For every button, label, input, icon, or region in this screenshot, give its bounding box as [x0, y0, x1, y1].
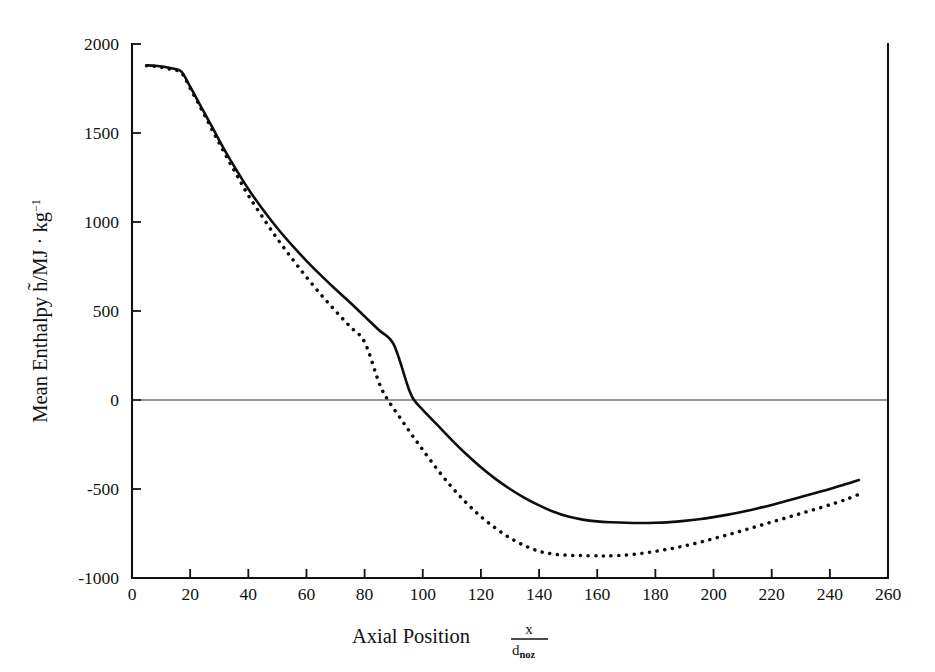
y-tick-label: 1500 — [84, 123, 119, 143]
x-tick-label: 180 — [642, 584, 669, 604]
y-tick-label: 500 — [93, 301, 120, 321]
y-axis-title-symbol: h̃ — [27, 282, 51, 292]
x-tick-label: 100 — [410, 584, 437, 604]
x-tick-label: 60 — [298, 584, 316, 604]
x-axis-fraction-numerator: x — [525, 621, 533, 637]
enthalpy-decay-chart: 020406080100120140160180200220240260 -10… — [0, 0, 935, 672]
x-tick-label: 200 — [700, 584, 727, 604]
y-axis-title-units: /MJ · kg — [29, 212, 52, 281]
x-tick-label: 220 — [759, 584, 786, 604]
y-tick-label: -500 — [87, 479, 119, 499]
x-tick-label: 40 — [240, 584, 258, 604]
y-tick-label: 0 — [110, 390, 119, 410]
y-axis-title-exponent: −1 — [29, 199, 43, 212]
x-tick-label: 120 — [468, 584, 495, 604]
x-tick-label: 20 — [181, 584, 199, 604]
x-tick-label: 240 — [817, 584, 844, 604]
x-tick-label: 80 — [356, 584, 374, 604]
chart-svg: 020406080100120140160180200220240260 -10… — [0, 0, 935, 672]
y-axis-title: Mean Enthalpy h̃/MJ · kg−1 — [27, 199, 52, 422]
y-axis-title-prefix: Mean Enthalpy — [29, 296, 52, 423]
x-tick-label: 260 — [875, 584, 902, 604]
y-tick-label: 1000 — [84, 212, 119, 232]
y-axis-title-text: Mean Enthalpy h̃/MJ · kg−1 — [27, 199, 52, 422]
y-tick-label: -1000 — [78, 568, 119, 588]
chart-background — [0, 0, 935, 672]
x-axis-fraction-denominator-sub: noz — [520, 649, 536, 660]
x-axis-title-text: Axial Position — [352, 625, 470, 647]
x-tick-label: 0 — [128, 584, 137, 604]
x-tick-label: 140 — [526, 584, 553, 604]
x-tick-label: 160 — [584, 584, 611, 604]
y-tick-label: 2000 — [84, 34, 119, 54]
